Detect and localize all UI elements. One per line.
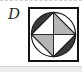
- quartered-circle-diamond-icon: [30, 9, 77, 60]
- option-label: D: [5, 4, 23, 24]
- bottom-edge-strip: [0, 66, 82, 72]
- dashed-top-border: [0, 0, 82, 1]
- answer-option-d[interactable]: D: [0, 0, 82, 72]
- figure-frame[interactable]: [28, 7, 79, 62]
